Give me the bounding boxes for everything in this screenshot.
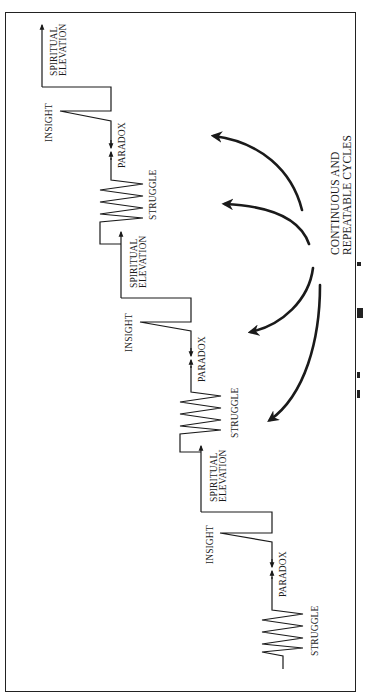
cycle-2-labels: SPIRITUAL ELEVATION INSIGHT PARADOX STRU…: [124, 236, 240, 438]
struggle-label-2: STRUGGLE: [230, 387, 240, 438]
struggle-label-1: STRUGGLE: [148, 169, 158, 220]
struggle-label-3: STRUGGLE: [310, 605, 320, 656]
callout-arrows: [214, 136, 320, 420]
paradox-label-3: PARADOX: [278, 551, 288, 597]
connector-1: [100, 232, 121, 244]
elevation-label-3b: ELEVATION: [218, 450, 228, 502]
callout-arrow-3-icon: [251, 268, 313, 332]
paradox-label-2: PARADOX: [197, 336, 207, 382]
elevation-label-2b: ELEVATION: [138, 236, 148, 288]
caption-fragment: [357, 262, 361, 266]
caption-fragment: [357, 390, 360, 398]
connector-2: [180, 444, 201, 452]
struggle-zigzag-1: [100, 158, 143, 232]
callout-text: CONTINUOUS AND REPEATABLE CYCLES: [329, 135, 353, 255]
insight-label-2: INSIGHT: [124, 313, 134, 352]
callout-line-2: REPEATABLE CYCLES: [341, 135, 353, 255]
cycle-3-labels: SPIRITUAL ELEVATION INSIGHT PARADOX STRU…: [205, 450, 320, 656]
callout-arrow-2-icon: [225, 204, 309, 244]
elevation-label-1b: ELEVATION: [58, 24, 68, 76]
caption-fragment: [357, 372, 360, 378]
callout-arrow-1-icon: [214, 136, 302, 210]
callout-line-1: CONTINUOUS AND: [329, 152, 341, 255]
insight-label-1: INSIGHT: [44, 103, 54, 142]
caption-fragment: [357, 308, 363, 318]
insight-label-3: INSIGHT: [205, 525, 215, 564]
paradox-label-1: PARADOX: [117, 122, 127, 168]
